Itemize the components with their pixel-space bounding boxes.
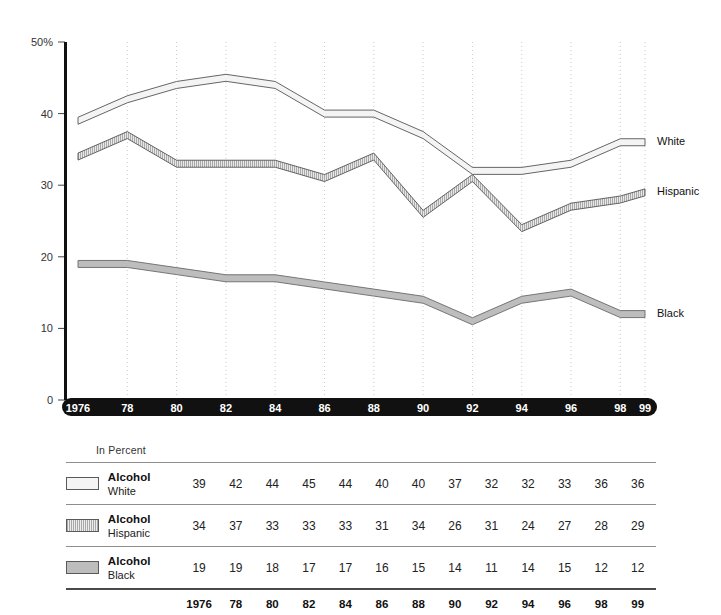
x-axis-label: 1976 xyxy=(66,402,90,414)
table-cell-value: 17 xyxy=(291,547,328,588)
gridlines xyxy=(127,42,645,398)
table-cell-value: 14 xyxy=(510,547,547,588)
table-cell-value: 33 xyxy=(254,505,291,546)
table-cell-value: 32 xyxy=(473,463,510,504)
legend-swatch-icon xyxy=(66,519,99,532)
table-cell-value: 15 xyxy=(546,547,583,588)
table-cell-value: 33 xyxy=(327,505,364,546)
legend-swatch-cell xyxy=(66,547,104,588)
legend-swatch-icon xyxy=(66,561,99,574)
x-axis-label: 82 xyxy=(220,402,232,414)
row-label: AlcoholWhite xyxy=(104,463,181,504)
table-cell-value: 29 xyxy=(619,505,656,546)
table-year-label: 84 xyxy=(327,590,364,615)
table-cell-value: 24 xyxy=(510,505,547,546)
table-cell-value: 12 xyxy=(583,547,620,588)
row-label-sub: Black xyxy=(108,568,181,582)
data-table: AlcoholWhite39424445444040373232333636Al… xyxy=(66,462,656,615)
legend-swatch-cell xyxy=(66,463,104,504)
y-axis-label: 0 xyxy=(47,394,53,406)
x-axis-label: 90 xyxy=(417,402,429,414)
table-cell-value: 27 xyxy=(546,505,583,546)
series-band-hispanic xyxy=(78,132,645,232)
series-bands xyxy=(78,74,645,324)
table-cell-value: 31 xyxy=(364,505,401,546)
x-axis-label: 99 xyxy=(639,402,651,414)
table-cell-value: 18 xyxy=(254,547,291,588)
table-cell-value: 37 xyxy=(218,505,255,546)
x-axis-label: 94 xyxy=(516,402,529,414)
table-row: AlcoholWhite39424445444040373232333636 xyxy=(66,463,656,504)
table-cell-value: 34 xyxy=(181,505,218,546)
series-label-hispanic: Hispanic xyxy=(657,185,700,197)
series-inline-labels: WhiteHispanicBlack xyxy=(657,135,700,319)
table-cell-value: 39 xyxy=(181,463,218,504)
x-axis-label: 92 xyxy=(466,402,478,414)
legend-swatch-icon xyxy=(66,477,99,490)
table-cell-value: 42 xyxy=(218,463,255,504)
table-cell-value: 19 xyxy=(181,547,218,588)
spacer-cell xyxy=(104,590,181,615)
legend-swatch-cell xyxy=(66,505,104,546)
table-year-header-row: 1976788082848688909294969899 xyxy=(66,590,656,615)
table-cell-value: 37 xyxy=(437,463,474,504)
y-axis-ticks xyxy=(58,42,65,400)
x-axis-label: 96 xyxy=(565,402,577,414)
table-cell-value: 44 xyxy=(327,463,364,504)
row-label-sub: Hispanic xyxy=(108,526,181,540)
table-year-label: 78 xyxy=(218,590,255,615)
chart-page: 01020304050% 197678808284868890929496989… xyxy=(0,0,721,615)
row-label-main: Alcohol xyxy=(108,554,181,568)
chart-area: 01020304050% 197678808284868890929496989… xyxy=(0,0,721,432)
table-cell-value: 12 xyxy=(619,547,656,588)
x-axis-label: 98 xyxy=(614,402,626,414)
table-cell-value: 45 xyxy=(291,463,328,504)
units-label: In Percent xyxy=(96,444,146,456)
y-axis-label: 50% xyxy=(31,36,53,48)
row-label: AlcoholBlack xyxy=(104,547,181,588)
series-label-black: Black xyxy=(657,307,684,319)
x-axis-label: 78 xyxy=(121,402,133,414)
table-year-label: 94 xyxy=(510,590,547,615)
table-year-label: 80 xyxy=(254,590,291,615)
x-axis-label: 86 xyxy=(318,402,330,414)
series-label-white: White xyxy=(657,135,685,147)
table-year-label: 99 xyxy=(619,590,656,615)
table-cell-value: 19 xyxy=(218,547,255,588)
spacer-cell xyxy=(66,590,104,615)
table-cell-value: 15 xyxy=(400,547,437,588)
table-year-label: 82 xyxy=(291,590,328,615)
table-cell-value: 11 xyxy=(473,547,510,588)
x-axis-label: 80 xyxy=(170,402,182,414)
table-year-label: 92 xyxy=(473,590,510,615)
table-row: AlcoholHispanic3437333333313426312427282… xyxy=(66,505,656,546)
table-cell-value: 40 xyxy=(400,463,437,504)
table-cell-value: 28 xyxy=(583,505,620,546)
x-axis-label: 88 xyxy=(368,402,380,414)
y-axis-label: 20 xyxy=(41,251,53,263)
table-cell-value: 33 xyxy=(546,463,583,504)
x-axis-label: 84 xyxy=(269,402,282,414)
row-label: AlcoholHispanic xyxy=(104,505,181,546)
table-cell-value: 31 xyxy=(473,505,510,546)
y-axis-label: 10 xyxy=(41,322,53,334)
table-cell-value: 40 xyxy=(364,463,401,504)
table-year-label: 96 xyxy=(546,590,583,615)
trend-chart: 01020304050% 197678808284868890929496989… xyxy=(0,0,721,432)
table-cell-value: 36 xyxy=(619,463,656,504)
table-cell-value: 16 xyxy=(364,547,401,588)
table-cell-value: 26 xyxy=(437,505,474,546)
table-cell-value: 36 xyxy=(583,463,620,504)
row-label-main: Alcohol xyxy=(108,512,181,526)
row-label-main: Alcohol xyxy=(108,470,181,484)
table-cell-value: 33 xyxy=(291,505,328,546)
table-year-label: 1976 xyxy=(181,590,218,615)
table-year-label: 98 xyxy=(583,590,620,615)
y-axis-label: 40 xyxy=(41,108,53,120)
y-axis-label: 30 xyxy=(41,179,53,191)
table-cell-value: 34 xyxy=(400,505,437,546)
table-row: AlcoholBlack19191817171615141114151212 xyxy=(66,547,656,588)
row-label-sub: White xyxy=(108,484,181,498)
table-cell-value: 17 xyxy=(327,547,364,588)
y-axis-labels: 01020304050% xyxy=(31,36,53,406)
